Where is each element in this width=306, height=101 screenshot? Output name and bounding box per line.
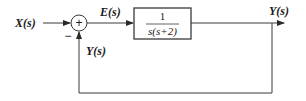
block-denominator: s(s+2) [148,25,177,38]
feedback-label: Y(s) [86,44,106,58]
error-label: E(s) [99,5,121,19]
minus-sign: − [64,29,71,43]
plus-sign: + [75,16,82,30]
block-numerator: 1 [160,10,166,22]
block-diagram: X(s) + − E(s) 1 s(s+2) Y(s) Y(s) [0,0,306,101]
output-label: Y(s) [269,4,289,18]
summing-junction: + − [64,15,87,43]
input-label: X(s) [14,16,36,30]
transfer-function-block: 1 s(s+2) [134,8,191,39]
